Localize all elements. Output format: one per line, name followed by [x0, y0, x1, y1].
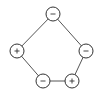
signed-cycle-diagram	[0, 0, 100, 105]
node-bottom-right	[65, 74, 79, 88]
edge-left-top	[17, 14, 53, 51]
node-left	[10, 44, 24, 58]
edges	[17, 14, 86, 81]
nodes	[10, 7, 93, 88]
node-bottom-left	[36, 74, 50, 88]
node-right	[79, 44, 93, 58]
node-top	[46, 7, 60, 21]
